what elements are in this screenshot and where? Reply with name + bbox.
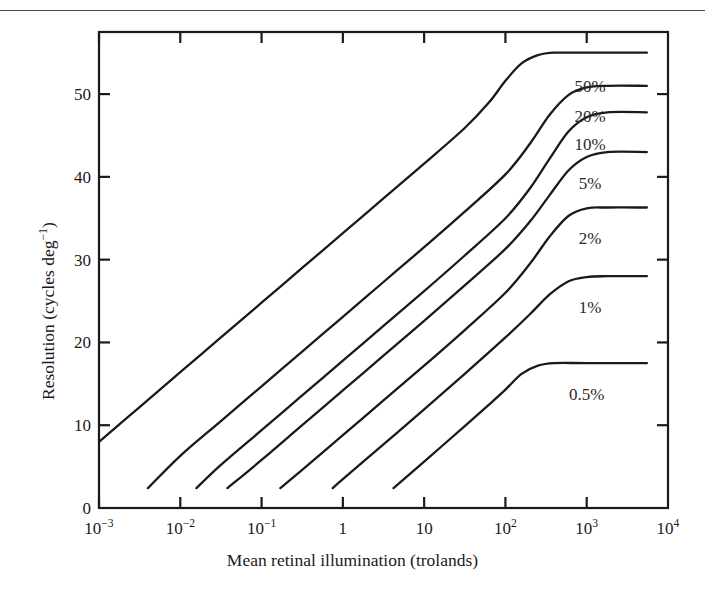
x-axis-title: Mean retinal illumination (trolands) — [0, 552, 705, 570]
x-tick-label-1: 10−2 — [166, 520, 195, 537]
x-tick-exponent: 2 — [511, 517, 517, 530]
curve-20pct — [148, 86, 647, 488]
x-tick-mantissa: 10 — [166, 519, 183, 538]
x-tick-mantissa: 10 — [84, 519, 101, 538]
curve-0_5pct — [394, 363, 647, 488]
curve-label-1pct: 1% — [579, 298, 602, 315]
axis-ticks — [99, 32, 668, 508]
y-axis-title-text: Resolution (cycles deg−1) — [38, 222, 58, 400]
y-tick-label-50: 50 — [51, 86, 91, 103]
curve-label-0_5pct: 0.5% — [569, 385, 604, 402]
x-tick-mantissa: 10 — [575, 519, 592, 538]
x-tick-exponent: 3 — [592, 517, 598, 530]
curve-2pct — [280, 207, 647, 488]
curve-label-10pct: 10% — [574, 135, 605, 152]
x-tick-label-5: 102 — [494, 520, 517, 537]
x-tick-label-4: 10 — [416, 520, 433, 537]
x-tick-label-3: 1 — [339, 520, 348, 537]
x-tick-mantissa: 10 — [657, 519, 674, 538]
curve-50pct — [99, 53, 647, 442]
curve-label-50pct: 50% — [574, 77, 605, 94]
y-axis-title: Resolution (cycles deg−1) — [40, 222, 58, 400]
curve-5pct — [227, 152, 646, 488]
axis-frame — [99, 32, 668, 508]
x-tick-mantissa: 10 — [416, 519, 433, 538]
curve-label-20pct: 20% — [574, 107, 605, 124]
data-curves — [99, 53, 647, 489]
y-tick-label-10: 10 — [51, 417, 91, 434]
x-tick-label-7: 104 — [657, 520, 680, 537]
x-tick-exponent: −3 — [101, 517, 113, 530]
figure-container: 01020304050 10−310−210−1110102103104 50%… — [0, 0, 705, 595]
x-tick-mantissa: 10 — [494, 519, 511, 538]
x-tick-label-6: 103 — [575, 520, 598, 537]
x-tick-exponent: −2 — [183, 517, 195, 530]
y-tick-label-0: 0 — [51, 500, 91, 517]
y-tick-label-40: 40 — [51, 168, 91, 185]
x-tick-label-0: 10−3 — [84, 520, 113, 537]
x-tick-exponent: −1 — [264, 517, 276, 530]
curve-label-2pct: 2% — [579, 230, 602, 247]
curve-label-5pct: 5% — [579, 174, 602, 191]
x-tick-exponent: 4 — [674, 517, 680, 530]
x-tick-mantissa: 10 — [247, 519, 264, 538]
x-tick-label-2: 10−1 — [247, 520, 276, 537]
x-tick-mantissa: 1 — [339, 519, 348, 538]
